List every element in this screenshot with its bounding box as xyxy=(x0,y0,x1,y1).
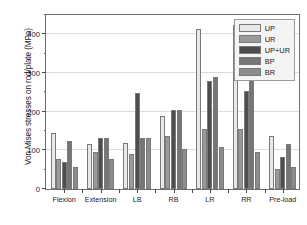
bar-pre-load-up-ur xyxy=(280,157,285,189)
legend-swatch-icon-br xyxy=(239,68,261,76)
x-tick-0 xyxy=(64,189,65,193)
chart-figure: Von Mises stresses on rod/plate (MPa) 01… xyxy=(0,0,307,225)
legend-item-up: UP xyxy=(239,23,290,33)
bar-flexion-ur xyxy=(56,159,61,189)
y-minor-tick-250 xyxy=(44,91,46,92)
bar-lb-up xyxy=(123,143,128,189)
y-tick-400 xyxy=(42,33,46,34)
x-tick-2 xyxy=(137,189,138,193)
x-group-separator-tick-5 xyxy=(228,189,229,193)
chart-legend: UPURUP+URBPBR xyxy=(234,19,295,81)
bar-flexion-up-ur xyxy=(62,162,67,189)
y-tick-0 xyxy=(42,188,46,189)
x-group-separator-tick-4 xyxy=(192,189,193,193)
bar-rb-up-ur xyxy=(171,110,176,189)
bar-pre-load-bp xyxy=(286,144,291,189)
x-tick-5 xyxy=(246,189,247,193)
x-tick-4 xyxy=(210,189,211,193)
legend-item-up-ur: UP+UR xyxy=(239,45,290,55)
y-tick-label-200: 200 xyxy=(27,107,40,116)
bar-extension-up-ur xyxy=(98,138,103,189)
legend-item-ur: UR xyxy=(239,34,290,44)
legend-swatch-icon-up xyxy=(239,24,261,32)
bar-extension-ur xyxy=(93,152,98,189)
bar-lb-up-ur xyxy=(135,93,140,189)
x-tick-3 xyxy=(174,189,175,193)
legend-item-bp: BP xyxy=(239,56,290,66)
x-group-separator-tick-1 xyxy=(82,189,83,193)
x-tick-6 xyxy=(283,189,284,193)
y-minor-tick-350 xyxy=(44,53,46,54)
legend-label: UP xyxy=(265,24,275,33)
y-tick-label-400: 400 xyxy=(27,30,40,39)
legend-label: UP+UR xyxy=(265,46,290,55)
legend-label: UR xyxy=(265,35,276,44)
legend-item-br: BR xyxy=(239,67,290,77)
bar-extension-bp xyxy=(104,138,109,189)
bar-rb-up xyxy=(160,116,165,189)
bar-flexion-bp xyxy=(67,141,72,189)
y-minor-tick-150 xyxy=(44,130,46,131)
legend-swatch-icon-ur xyxy=(239,35,261,43)
bar-rr-br xyxy=(255,152,260,189)
x-group-separator-tick-6 xyxy=(265,189,266,193)
y-tick-label-0: 0 xyxy=(36,185,40,194)
bar-lb-br xyxy=(146,138,151,189)
bar-flexion-up xyxy=(51,133,56,189)
bar-rr-ur xyxy=(238,129,243,189)
legend-swatch-icon-up-ur xyxy=(239,46,261,54)
bar-flexion-br xyxy=(73,167,78,189)
bar-lb-ur xyxy=(129,154,134,189)
legend-label: BP xyxy=(265,57,275,66)
y-tick-100 xyxy=(42,149,46,150)
y-minor-tick-450 xyxy=(44,14,46,15)
bar-lr-up-ur xyxy=(207,81,212,189)
x-group-separator-tick-2 xyxy=(119,189,120,193)
bar-pre-load-ur xyxy=(275,169,280,189)
x-tick-label-lr: LR xyxy=(205,195,214,204)
bar-lr-ur xyxy=(202,129,207,189)
bar-lr-up xyxy=(196,29,201,189)
y-tick-200 xyxy=(42,111,46,112)
y-tick-label-300: 300 xyxy=(27,69,40,78)
plot-area: 0100200300400FlexionExtensionLBRBLRRRPre… xyxy=(45,14,300,190)
bar-pre-load-up xyxy=(269,136,274,189)
x-tick-label-extension: Extension xyxy=(85,195,117,204)
legend-label: BR xyxy=(265,68,275,77)
bar-lr-br xyxy=(219,147,224,189)
x-tick-label-pre-load: Pre-load xyxy=(269,195,296,204)
legend-swatch-icon-bp xyxy=(239,57,261,65)
bar-extension-br xyxy=(109,159,114,189)
bar-rb-ur xyxy=(165,136,170,189)
y-tick-300 xyxy=(42,72,46,73)
x-tick-label-rr: RR xyxy=(241,195,251,204)
bar-pre-load-br xyxy=(291,167,296,189)
bar-rr-bp xyxy=(249,76,254,189)
bar-rb-br xyxy=(182,149,187,189)
y-tick-label-100: 100 xyxy=(27,146,40,155)
x-tick-label-rb: RB xyxy=(169,195,179,204)
x-group-separator-tick-3 xyxy=(155,189,156,193)
bar-extension-up xyxy=(87,144,92,189)
x-tick-label-flexion: Flexion xyxy=(53,195,76,204)
x-tick-label-lb: LB xyxy=(133,195,142,204)
bar-lb-bp xyxy=(140,138,145,189)
bar-rb-bp xyxy=(177,110,182,189)
x-tick-1 xyxy=(101,189,102,193)
y-minor-tick-50 xyxy=(44,169,46,170)
bar-rr-up-ur xyxy=(244,91,249,189)
bar-lr-bp xyxy=(213,77,218,189)
